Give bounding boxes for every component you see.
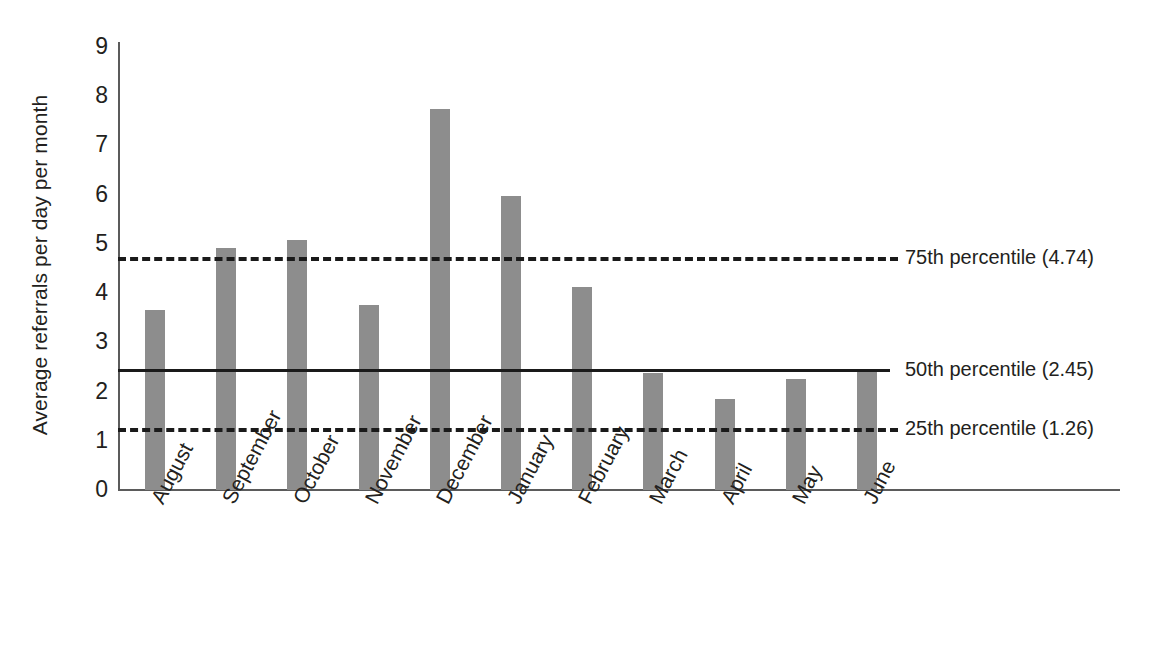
percentile-label-p50: 50th percentile (2.45) (905, 359, 1094, 379)
y-axis-tick-label: 2 (82, 380, 108, 403)
y-axis-tick-label: 1 (82, 429, 108, 452)
y-axis-tick-labels: 0123456789 (76, 0, 108, 663)
y-axis-tick-label: 3 (82, 330, 108, 353)
y-axis-tick-label: 5 (82, 232, 108, 255)
y-axis-tick-label: 7 (82, 133, 108, 156)
x-axis-tick-labels: AugustSeptemberOctoberNovemberDecemberJa… (118, 497, 1120, 657)
y-axis-tick-label: 0 (82, 478, 108, 501)
bar-chart: Average referrals per day per month 0123… (0, 0, 1168, 663)
bar (572, 287, 592, 490)
percentile-line-p75 (118, 257, 898, 261)
y-axis-title: Average referrals per day per month (22, 30, 58, 500)
percentile-label-p75: 75th percentile (4.74) (905, 247, 1094, 267)
bar (145, 310, 165, 490)
y-axis-tick-label: 8 (82, 84, 108, 107)
percentile-line-p50 (118, 369, 890, 372)
y-axis-tick-label: 9 (82, 35, 108, 58)
percentile-line-p25 (118, 428, 898, 432)
bar (501, 196, 521, 490)
bar (287, 240, 307, 490)
y-axis-tick-label: 4 (82, 281, 108, 304)
bar (430, 109, 450, 490)
percentile-label-p25: 25th percentile (1.26) (905, 418, 1094, 438)
bar (359, 305, 379, 490)
y-axis-tick-label: 6 (82, 183, 108, 206)
